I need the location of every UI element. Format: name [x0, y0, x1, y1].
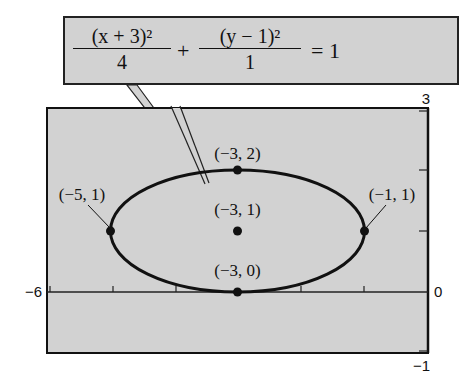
label-right: (−1, 1): [369, 185, 415, 204]
ellipse-plot: (−3, 2) (−3, 1) (−3, 0) (−5, 1) (−1, 1) …: [0, 0, 463, 382]
point-left: [106, 227, 115, 236]
label-top: (−3, 2): [214, 144, 260, 163]
point-top: [233, 166, 242, 175]
xmin-label: −6: [25, 283, 42, 300]
label-center: (−3, 1): [214, 200, 260, 219]
label-left: (−5, 1): [59, 185, 105, 204]
point-center: [233, 227, 242, 236]
label-bottom: (−3, 0): [214, 261, 260, 280]
point-bottom: [233, 288, 242, 297]
ymin-label: −1: [413, 357, 430, 374]
point-right: [360, 227, 369, 236]
ymax-label: 3: [422, 90, 430, 107]
xmax-label: 0: [434, 283, 442, 300]
